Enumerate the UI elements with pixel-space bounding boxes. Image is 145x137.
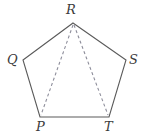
vertex-label-s: S (129, 53, 138, 66)
diagonal-r-to-p (41, 25, 73, 115)
geometry-figure: R S T P Q (0, 0, 145, 137)
vertex-label-q: Q (7, 53, 18, 66)
diagonal-r-to-t (74, 25, 108, 115)
pentagon-diagram (0, 0, 145, 137)
pentagon-outline (23, 23, 126, 117)
vertex-label-t: T (104, 120, 113, 133)
vertex-label-r: R (66, 3, 76, 16)
vertex-label-p: P (36, 120, 45, 133)
